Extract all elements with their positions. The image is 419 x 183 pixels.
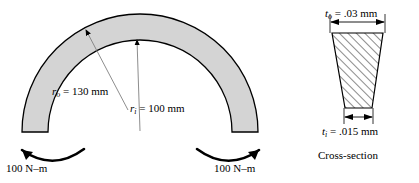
inner-radius-label: ri = 100 mm — [130, 103, 185, 116]
top-thickness-value: = .03 mm — [335, 7, 378, 19]
outer-radius-subscript: o — [56, 90, 60, 99]
inner-radius-leader-line — [137, 40, 140, 131]
cross-section-trapezoid — [332, 33, 383, 108]
curved-beam-figure: ro = 130 mm ri = 100 mm to = .03 mm ti =… — [0, 0, 419, 183]
right-moment-arc — [197, 149, 259, 161]
bottom-dimension-arrow-right — [364, 114, 373, 120]
inner-radius-subscript: i — [134, 107, 136, 116]
right-moment-label: 100 N–m — [214, 163, 255, 174]
bottom-dimension-arrow-left — [344, 114, 353, 120]
bottom-thickness-value: = .015 mm — [330, 125, 378, 137]
top-thickness-subscript: o — [328, 12, 332, 21]
outer-radius-label: ro = 130 mm — [52, 86, 108, 99]
left-moment-arc — [22, 149, 84, 161]
left-moment-label: 100 N–m — [6, 163, 47, 174]
inner-radius-value: = 100 mm — [139, 102, 184, 114]
outer-radius-value: = 130 mm — [63, 85, 108, 97]
bottom-thickness-subscript: i — [325, 130, 327, 139]
top-thickness-label: to = .03 mm — [325, 8, 377, 21]
cross-section-caption: Cross-section — [318, 150, 378, 161]
bottom-thickness-label: ti = .015 mm — [322, 126, 378, 139]
